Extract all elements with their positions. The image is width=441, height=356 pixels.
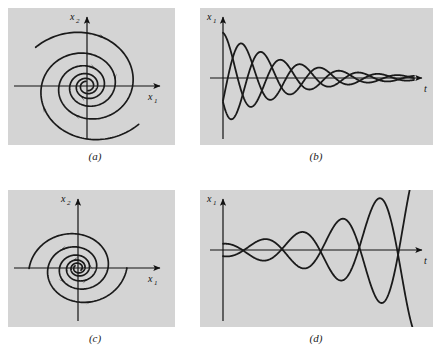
x-axis-label-sub: 1	[154, 279, 158, 287]
x-axis-label: x	[147, 273, 153, 284]
panel-d-svg: t x 1	[200, 190, 433, 327]
wave-1	[223, 198, 414, 327]
panel-a-phase-portrait: x 1 x 2	[8, 8, 175, 145]
caption-a: (a)	[75, 150, 115, 162]
panel-c-phase-portrait: x 1 x 2	[8, 190, 175, 327]
y-axis-label: x	[69, 11, 75, 22]
caption-d: (d)	[296, 332, 336, 344]
wave-3	[223, 43, 414, 100]
x1-axis-label-sub: 1	[213, 199, 217, 207]
panel-d-time-series: t x 1	[200, 190, 433, 327]
t-axis-label: t	[424, 83, 427, 94]
y-axis-label-sub: 2	[67, 199, 71, 207]
x-axis-label-sub: 1	[154, 97, 158, 105]
panel-b-time-series: t x 1	[200, 8, 433, 145]
panel-d-waves	[223, 190, 414, 327]
x1-axis-label: x	[206, 193, 212, 204]
wave-1	[223, 33, 414, 107]
caption-b: (b)	[296, 150, 336, 162]
x1-axis-label-sub: 1	[213, 17, 217, 25]
x1-axis-label: x	[206, 11, 212, 22]
x-axis-label: x	[147, 91, 153, 102]
panel-c-svg: x 1 x 2	[8, 190, 175, 327]
y-axis-label: x	[60, 193, 66, 204]
caption-c: (c)	[75, 332, 115, 344]
panel-a-svg: x 1 x 2	[8, 8, 175, 145]
t-axis-label: t	[424, 255, 427, 266]
panel-b-svg: t x 1	[200, 8, 433, 145]
y-axis-label-sub: 2	[76, 17, 80, 25]
figure-root: x 1 x 2 (a) t x 1 (b)	[0, 0, 441, 356]
panel-b-waves	[223, 33, 414, 120]
